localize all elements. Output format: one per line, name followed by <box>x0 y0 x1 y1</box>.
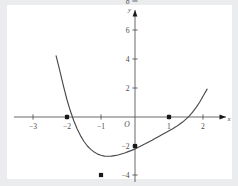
marked-point <box>65 115 69 119</box>
marked-point <box>99 173 103 177</box>
y-tick-label: 4 <box>126 55 130 64</box>
y-tick-label: −4 <box>121 171 129 180</box>
y-axis-group <box>133 10 138 182</box>
x-axis-tick-labels: −3−2−112 <box>29 122 205 131</box>
cartesian-plot: −3−2−112 2468−2−4 O x y <box>0 0 238 186</box>
y-tick-label: 6 <box>126 26 130 35</box>
x-tick-label: 2 <box>201 122 205 131</box>
y-tick-label: 2 <box>126 84 130 93</box>
function-curve <box>56 56 207 156</box>
marked-point <box>133 144 137 148</box>
y-axis-arrowhead <box>133 10 138 17</box>
x-tick-label: −1 <box>97 122 105 131</box>
graph-figure: −3−2−112 2468−2−4 O x y <box>0 0 238 186</box>
marked-points-group <box>65 115 171 177</box>
x-tick-label: −3 <box>29 122 37 131</box>
x-tick-label: 1 <box>167 122 171 131</box>
x-axis-label: x <box>226 115 231 123</box>
x-tick-label: −2 <box>63 122 71 131</box>
y-tick-label: 8 <box>126 0 130 6</box>
origin-label: O <box>124 120 130 129</box>
x-axis-arrowhead <box>220 115 227 120</box>
marked-point <box>167 115 171 119</box>
x-axis-group <box>14 115 226 120</box>
y-axis-label: y <box>127 6 132 14</box>
y-tick-label: −2 <box>121 142 129 151</box>
